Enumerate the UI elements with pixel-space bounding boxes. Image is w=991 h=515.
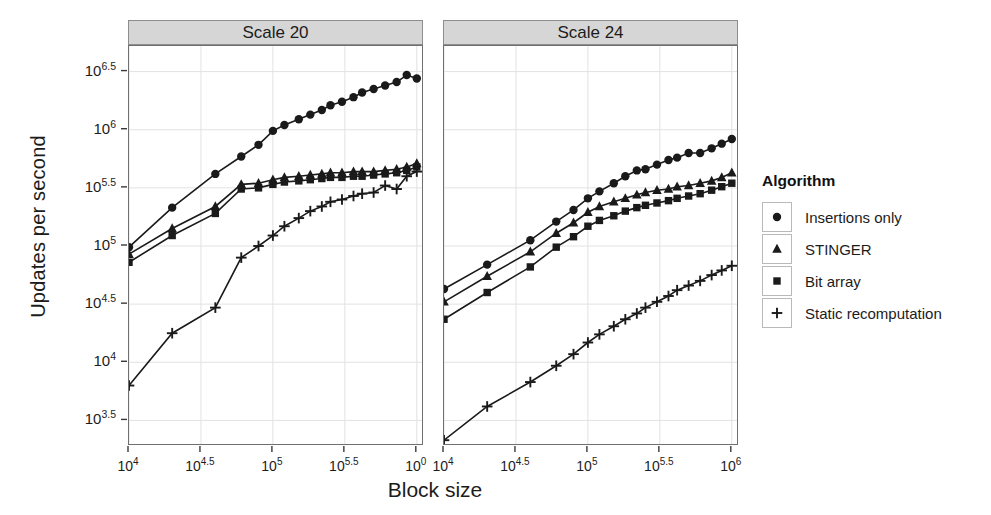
data-point-square [381, 170, 388, 177]
chart-figure: Updates per second Block size 106.510610… [0, 0, 991, 515]
data-point-plus [294, 213, 305, 224]
data-point-plus [368, 187, 379, 198]
data-point-plus [525, 377, 536, 388]
data-point-plus [716, 265, 727, 276]
data-point-square [718, 183, 725, 190]
x-tick-label: 104 [432, 456, 453, 474]
data-point-square [350, 173, 357, 180]
y-tick-label: 103.5 [85, 408, 116, 427]
data-point-circle [168, 203, 176, 211]
data-point-triangle [551, 228, 561, 237]
y-tick-label: 106 [93, 118, 116, 137]
data-point-square [622, 207, 629, 214]
data-point-square [633, 204, 640, 211]
data-point-triangle [772, 244, 782, 253]
facet-strip-label: Scale 24 [557, 23, 623, 43]
data-point-plus [609, 321, 620, 332]
data-point-circle [773, 213, 781, 221]
data-point-plus [632, 308, 643, 319]
data-point-circle [295, 115, 303, 123]
y-tick-label: 105.5 [85, 176, 116, 195]
data-point-triangle [569, 218, 579, 227]
y-tick-label: 105 [93, 234, 116, 253]
legend-key-triangle-icon [762, 234, 792, 264]
data-point-circle [684, 149, 692, 157]
data-point-plus [652, 297, 663, 308]
legend-item-static-recomputation[interactable]: Static recomputation [762, 298, 942, 328]
data-point-plus [348, 191, 359, 202]
data-point-circle [718, 139, 726, 147]
x-tick-label: 105 [261, 456, 282, 474]
data-point-circle [237, 152, 245, 160]
data-point-square [527, 263, 534, 270]
data-point-circle [641, 165, 649, 173]
legend-key-square-icon [762, 266, 792, 296]
data-point-square [773, 277, 780, 284]
data-point-circle [621, 172, 629, 180]
data-point-plus [683, 280, 694, 291]
data-point-circle [413, 74, 421, 82]
data-point-plus [380, 180, 391, 191]
data-point-triangle [727, 168, 737, 177]
data-point-circle [392, 78, 400, 86]
data-point-square [281, 178, 288, 185]
facet-strip-scale-20: Scale 20 [128, 20, 423, 45]
data-point-circle [403, 71, 411, 79]
data-point-square [444, 316, 448, 323]
plot-svg-scale-20 [129, 46, 423, 445]
data-point-circle [569, 206, 577, 214]
data-point-square [708, 186, 715, 193]
data-point-circle [664, 156, 672, 164]
data-point-plus [305, 206, 316, 217]
x-tick-label: 105 [576, 456, 597, 474]
legend-key-plus-icon [762, 298, 792, 328]
data-point-triangle [167, 223, 177, 232]
legend-label: STINGER [805, 241, 872, 258]
data-point-plus [253, 241, 264, 252]
legend-item-stinger[interactable]: STINGER [762, 234, 872, 264]
data-point-square [610, 212, 617, 219]
data-point-plus [594, 329, 605, 340]
data-point-circle [349, 93, 357, 101]
data-point-square [696, 190, 703, 197]
legend-item-bit-array[interactable]: Bit array [762, 266, 861, 296]
data-point-square [269, 181, 276, 188]
data-point-square [665, 197, 672, 204]
x-tick-label: 104.5 [185, 456, 214, 474]
x-tick-label: 104 [117, 456, 138, 474]
data-point-circle [254, 141, 262, 149]
y-tick-label: 104.5 [85, 292, 116, 311]
data-point-square [129, 259, 133, 266]
data-point-circle [552, 217, 560, 225]
data-point-square [327, 174, 334, 181]
data-point-square [673, 195, 680, 202]
series-insertions-only [129, 71, 421, 251]
data-point-plus [337, 194, 348, 205]
data-point-plus [772, 308, 783, 319]
data-point-square [685, 192, 692, 199]
data-point-square [338, 174, 345, 181]
data-point-circle [584, 194, 592, 202]
data-point-square [728, 180, 735, 187]
data-point-square [393, 169, 400, 176]
data-point-square [168, 232, 175, 239]
data-point-square [653, 199, 660, 206]
data-point-circle [483, 260, 491, 268]
x-tick-label: 104.5 [500, 456, 529, 474]
data-point-circle [595, 187, 603, 195]
data-point-circle [326, 101, 334, 109]
data-point-square [358, 173, 365, 180]
data-point-plus [620, 314, 631, 325]
data-point-circle [280, 121, 288, 129]
data-point-square [370, 171, 377, 178]
data-point-square [642, 202, 649, 209]
legend-item-insertions-only[interactable]: Insertions only [762, 202, 902, 232]
data-point-circle [728, 135, 736, 143]
legend-label: Static recomputation [805, 305, 942, 322]
y-axis-title: Updates per second [27, 97, 50, 357]
data-point-square [596, 217, 603, 224]
data-point-square [307, 176, 314, 183]
data-point-plus [727, 260, 738, 271]
data-point-square [483, 289, 490, 296]
data-point-circle [269, 127, 277, 135]
